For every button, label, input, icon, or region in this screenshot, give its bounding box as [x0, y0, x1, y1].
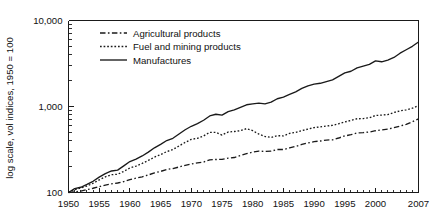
series-line-fuel-and-mining-products [69, 106, 419, 193]
legend-item: Fuel and mining products [100, 41, 241, 52]
x-tick-label: 1990 [303, 198, 324, 209]
legend-label: Manufactures [133, 55, 191, 66]
y-axis-title-label: log scale, vol indices, 1950 = 100 [4, 37, 15, 179]
y-tick-label: 100 [46, 187, 62, 198]
legend-label: Fuel and mining products [133, 41, 241, 52]
legend-item: Manufactures [100, 55, 191, 66]
x-tick-label: 1975 [211, 198, 232, 209]
x-tick-label: 1950 [58, 198, 79, 209]
x-tick-label: 2007 [408, 198, 429, 209]
x-tick-label: 1960 [119, 198, 140, 209]
chart-figure: log scale, vol indices, 1950 = 100 10,00… [0, 0, 441, 219]
y-tick-label: 1,000 [38, 101, 62, 112]
data-series-group [69, 42, 419, 193]
y-axis-title: log scale, vol indices, 1950 = 100 [4, 37, 15, 179]
x-tick-label: 2000 [365, 198, 386, 209]
series-line-manufactures [69, 42, 419, 193]
y-axis-tick-labels: 10,0001,000100 [33, 15, 62, 198]
x-tick-label: 1955 [89, 198, 110, 209]
x-tick-label: 1970 [181, 198, 202, 209]
legend-item: Agricultural products [100, 28, 221, 39]
x-tick-label: 1995 [334, 198, 355, 209]
x-tick-label: 1980 [242, 198, 263, 209]
x-axis-tick-labels: 1950195519601965197019751980198519901995… [58, 198, 429, 209]
series-line-agricultural-products [69, 119, 419, 193]
x-tick-label: 1985 [273, 198, 294, 209]
chart-legend: Agricultural productsFuel and mining pro… [100, 28, 241, 66]
y-tick-label: 10,000 [33, 15, 62, 26]
line-chart: log scale, vol indices, 1950 = 100 10,00… [0, 0, 441, 219]
x-tick-label: 1965 [150, 198, 171, 209]
legend-label: Agricultural products [133, 28, 221, 39]
